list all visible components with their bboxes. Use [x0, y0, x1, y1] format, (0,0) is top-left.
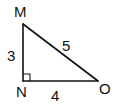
- side-mo: [23, 24, 98, 81]
- triangle-diagram: M N O 3 4 5: [0, 0, 116, 104]
- side-length-mo: 5: [62, 37, 70, 54]
- side-length-mn: 3: [7, 47, 15, 64]
- vertex-label-m: M: [14, 3, 27, 20]
- right-angle-marker: [23, 74, 30, 81]
- vertex-label-o: O: [99, 80, 111, 97]
- side-length-no: 4: [51, 87, 59, 104]
- vertex-label-n: N: [16, 83, 27, 100]
